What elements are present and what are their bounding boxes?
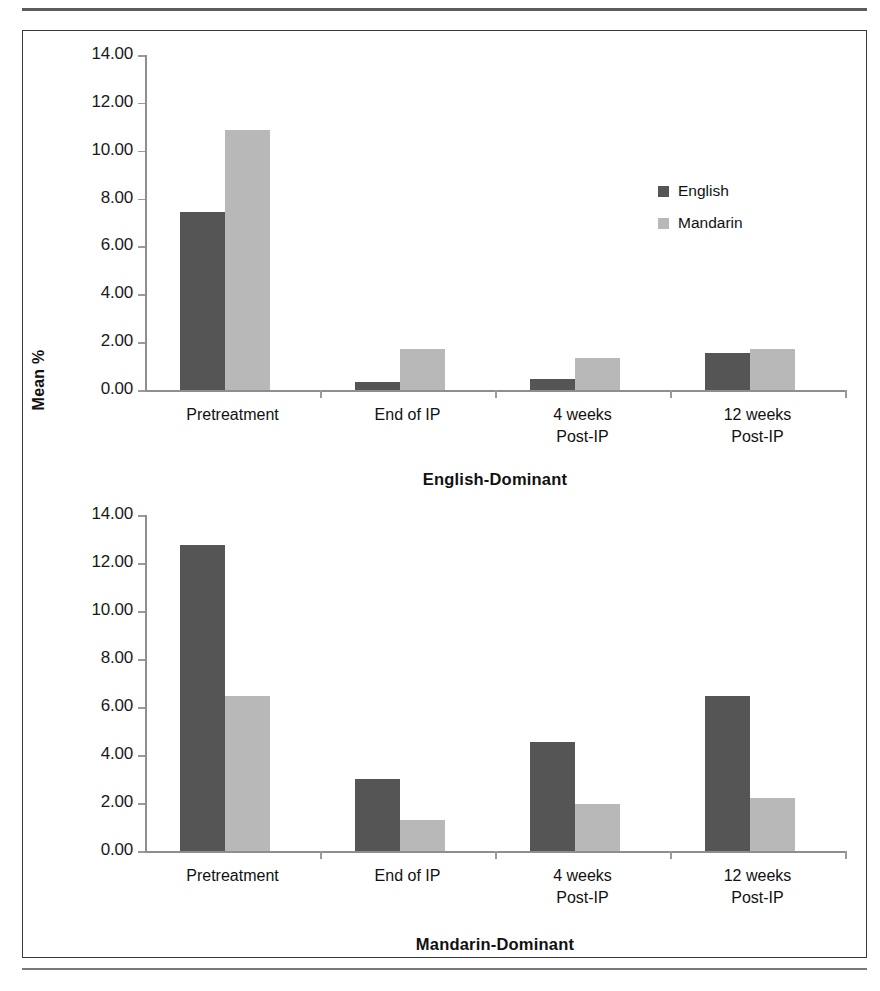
x-axis-category-label: 4 weeks Post-IP (495, 404, 670, 448)
y-axis-tick-label: 2.00 (101, 331, 133, 351)
y-axis-tick-mark (138, 55, 145, 57)
chart-panel-english-dominant: 0.002.004.006.008.0010.0012.0014.00Pretr… (145, 55, 845, 235)
legend-label-english: English (678, 182, 729, 200)
y-axis-tick-label: 2.00 (101, 792, 133, 812)
y-axis-tick-mark (138, 151, 145, 153)
bar-mandarin-3 (750, 349, 795, 390)
bar-mandarin-1 (400, 820, 445, 851)
x-axis-category-label: 12 weeks Post-IP (670, 865, 845, 909)
bar-english-0 (180, 212, 225, 390)
y-axis-tick-mark (138, 103, 145, 105)
x-axis-category-label: End of IP (320, 865, 495, 887)
legend-swatch-mandarin-icon (658, 218, 669, 229)
legend-swatch-english-icon (658, 186, 669, 197)
bar-english-1 (355, 779, 400, 851)
y-axis-tick-mark (138, 659, 145, 661)
y-axis-line (145, 515, 147, 851)
bar-english-0 (180, 545, 225, 851)
bar-english-3 (705, 353, 750, 390)
legend-item-english: English (658, 183, 743, 199)
bar-mandarin-2 (575, 358, 620, 390)
y-axis-tick-label: 8.00 (101, 648, 133, 668)
y-axis-tick-label: 12.00 (91, 92, 133, 112)
y-axis-tick-mark (138, 563, 145, 565)
y-axis-tick-label: 0.00 (101, 379, 133, 399)
y-axis-tick-label: 10.00 (91, 600, 133, 620)
y-axis-tick-label: 0.00 (101, 840, 133, 860)
panel-title-english-dominant: English-Dominant (145, 470, 845, 489)
y-axis-tick-mark (138, 246, 145, 248)
y-axis-tick-mark (138, 199, 145, 201)
y-axis-tick-label: 6.00 (101, 235, 133, 255)
figure-page: Mean % 0.002.004.006.008.0010.0012.0014.… (0, 0, 880, 991)
y-axis-tick-label: 6.00 (101, 696, 133, 716)
y-axis-tick-mark (138, 611, 145, 613)
bar-mandarin-0 (225, 696, 270, 851)
bar-mandarin-0 (225, 130, 270, 390)
y-axis-tick-label: 10.00 (91, 140, 133, 160)
x-axis-category-label: Pretreatment (145, 865, 320, 887)
x-axis-group-separator (495, 851, 497, 859)
y-axis-tick-mark (138, 390, 145, 392)
y-axis-line (145, 55, 147, 390)
x-axis-category-label: 12 weeks Post-IP (670, 404, 845, 448)
y-axis-tick-mark (138, 755, 145, 757)
y-axis-title: Mean % (30, 310, 60, 450)
bar-english-2 (530, 379, 575, 390)
bar-mandarin-3 (750, 798, 795, 851)
y-axis-tick-label: 8.00 (101, 188, 133, 208)
y-axis-tick-label: 4.00 (101, 744, 133, 764)
bar-mandarin-1 (400, 349, 445, 390)
chart-legend: English Mandarin (658, 183, 743, 247)
y-axis-tick-mark (138, 515, 145, 517)
x-axis-group-separator (495, 390, 497, 398)
x-axis-group-separator (670, 851, 672, 859)
chart-panel-mandarin-dominant: 0.002.004.006.008.0010.0012.0014.00Pretr… (145, 515, 845, 695)
y-axis-tick-label: 12.00 (91, 552, 133, 572)
y-axis-tick-mark (138, 294, 145, 296)
x-axis-group-separator (320, 390, 322, 398)
panel-title-mandarin-dominant: Mandarin-Dominant (145, 935, 845, 954)
bar-mandarin-2 (575, 804, 620, 851)
bar-english-1 (355, 382, 400, 390)
y-axis-tick-label: 4.00 (101, 283, 133, 303)
plot-area-mandarin-dominant: 0.002.004.006.008.0010.0012.0014.00Pretr… (145, 515, 845, 851)
y-axis-tick-label: 14.00 (91, 44, 133, 64)
bar-english-2 (530, 742, 575, 851)
legend-label-mandarin: Mandarin (678, 214, 743, 232)
page-rule-bottom (22, 968, 867, 970)
x-axis-end-tick (845, 390, 847, 398)
page-rule-top (22, 8, 867, 11)
x-axis-category-label: End of IP (320, 404, 495, 426)
x-axis-category-label: Pretreatment (145, 404, 320, 426)
y-axis-tick-mark (138, 851, 145, 853)
x-axis-group-separator (320, 851, 322, 859)
x-axis-category-label: 4 weeks Post-IP (495, 865, 670, 909)
y-axis-tick-mark (138, 707, 145, 709)
y-axis-tick-label: 14.00 (91, 504, 133, 524)
legend-item-mandarin: Mandarin (658, 215, 743, 231)
y-axis-tick-mark (138, 803, 145, 805)
x-axis-group-separator (670, 390, 672, 398)
y-axis-tick-mark (138, 342, 145, 344)
x-axis-end-tick (845, 851, 847, 859)
bar-english-3 (705, 696, 750, 851)
